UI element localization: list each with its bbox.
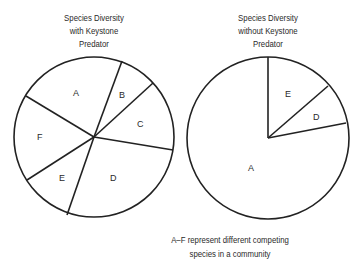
pie-charts: A B C D E F E D A (0, 0, 358, 261)
divider-c-d (94, 137, 173, 150)
divider-a-b (94, 61, 122, 137)
right-slice-label-a: A (248, 163, 254, 173)
left-slice-label-d: D (110, 173, 117, 183)
divider-f-a (26, 96, 94, 137)
right-slice-label-e: E (285, 89, 291, 99)
left-slice-label-f: F (37, 132, 43, 142)
divider-d-a (268, 123, 346, 138)
left-slice-label-b: B (119, 90, 125, 100)
left-slice-label-e: E (59, 173, 65, 183)
legend-caption: A–F represent different competing specie… (156, 233, 304, 261)
left-slice-label-c: C (137, 119, 144, 129)
divider-d-e (67, 137, 94, 215)
right-pie-chart (187, 57, 349, 219)
left-slice-label-a: A (73, 88, 79, 98)
caption-line-2: species in a community (156, 247, 304, 261)
right-slice-label-d: D (313, 112, 320, 122)
caption-line-1: A–F represent different competing (156, 233, 304, 247)
